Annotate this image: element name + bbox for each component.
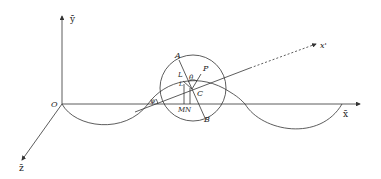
wave-diagram: ȳ x̄ z̄ O x' A P C B M N L L ψ θ	[0, 0, 381, 179]
y-axis-label: ȳ	[69, 14, 76, 24]
point-a-label: A	[174, 51, 181, 60]
origin-label: O	[51, 100, 58, 109]
point-l-label: L	[177, 71, 183, 79]
point-n-label: N	[184, 106, 192, 114]
point-c-label: C	[197, 89, 203, 98]
z-axis	[22, 104, 62, 160]
point-b-label: B	[203, 115, 210, 124]
point-l2-label: L	[178, 80, 183, 87]
x-prime-label: x'	[320, 41, 327, 50]
sine-wave	[62, 81, 342, 129]
point-p-label: P	[202, 64, 209, 73]
angle-psi-label: ψ	[150, 97, 156, 105]
z-axis-label: z̄	[19, 163, 24, 173]
segment-cp	[192, 74, 201, 89]
x-axis-label: x̄	[343, 109, 348, 119]
x-prime-axis	[250, 44, 316, 68]
